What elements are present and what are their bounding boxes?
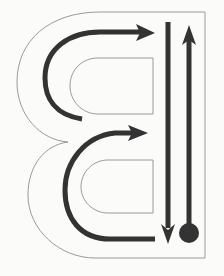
diagram-canvas bbox=[0, 0, 224, 276]
upper-counter-outline bbox=[70, 58, 153, 114]
lower-counter-outline bbox=[81, 160, 153, 213]
upper-curve-stroke bbox=[45, 32, 140, 119]
lower-curve-stroke bbox=[65, 133, 155, 239]
letter-stroke-diagram: Letter B stroke order guide bbox=[0, 0, 224, 276]
start-dot-icon bbox=[179, 223, 199, 243]
